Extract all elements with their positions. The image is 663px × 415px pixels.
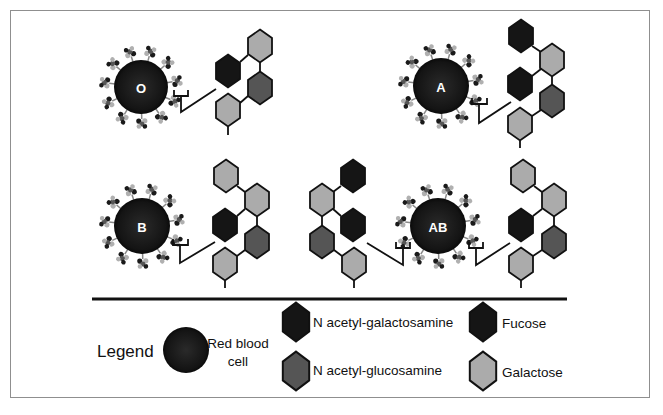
antigen-icon (433, 253, 445, 269)
cell-label-a: A (436, 80, 446, 95)
cell-group-o: O (99, 30, 272, 136)
legend-red-blood-cell-icon (163, 327, 209, 373)
antigen-icon (136, 113, 148, 129)
legend-n-acetyl-galactosamine-icon (283, 303, 309, 342)
n-acetyl-glucosamine-hexagon (248, 72, 272, 105)
galactose-hexagon (342, 248, 366, 281)
fucose-hexagon (213, 209, 237, 242)
n-acetyl-galactosamine-hexagon (509, 20, 533, 53)
antigen-icon (168, 213, 185, 227)
antigen-icon (137, 253, 149, 269)
legend-rbc-label-line1: Red blood (207, 336, 269, 351)
galactose-hexagon (213, 248, 237, 281)
antigen-bracket-b (173, 239, 215, 263)
cell-label-b: B (137, 220, 146, 235)
antigen-icon (166, 75, 183, 89)
n-acetyl-glucosamine-hexagon (245, 226, 269, 259)
antigen-icon (99, 76, 116, 89)
antigen-icon (398, 75, 415, 88)
galactose-hexagon (508, 108, 532, 141)
legend: Legend Red blood cell N acetyl-galactosa… (97, 303, 563, 391)
legend-item-label: N acetyl-galactosamine (313, 315, 453, 330)
fucose-hexagon (508, 68, 532, 101)
n-acetyl-glucosamine-hexagon (542, 226, 566, 259)
galactose-hexagon (511, 160, 535, 193)
galactose-hexagon (542, 184, 566, 217)
legend-title: Legend (97, 342, 154, 361)
antigen-icon (464, 213, 481, 227)
fucose-hexagon (216, 55, 240, 88)
antigen-icon (99, 215, 116, 228)
cell-group-a: A (398, 20, 564, 149)
legend-fucose-icon (470, 303, 496, 342)
antigen-icon (436, 113, 448, 129)
legend-n-acetyl-glucosamine-icon (283, 352, 309, 391)
legend-item-label: Fucose (502, 316, 546, 331)
n-acetyl-glucosamine-hexagon (540, 85, 564, 118)
galactose-hexagon (216, 94, 240, 127)
galactose-hexagon (509, 248, 533, 281)
n-acetyl-galactosamine-hexagon (341, 160, 365, 193)
legend-item-label: Galactose (502, 365, 563, 380)
galactose-hexagon (214, 160, 238, 193)
antigen-icon (395, 215, 412, 228)
galactose-hexagon (540, 44, 564, 77)
cell-group-ab: AB (310, 160, 566, 289)
galactose-hexagon (310, 184, 334, 217)
n-acetyl-glucosamine-hexagon (310, 226, 334, 259)
cell-label-o: O (136, 81, 146, 96)
legend-rbc-label-line2: cell (228, 354, 248, 369)
blood-group-diagram: O A B (0, 0, 663, 415)
galactose-hexagon (248, 30, 272, 63)
antigen-icon (467, 73, 484, 87)
fucose-hexagon (509, 209, 533, 242)
legend-item-label: N acetyl-glucosamine (313, 363, 442, 378)
cell-label-ab: AB (429, 220, 448, 235)
galactose-hexagon (245, 184, 269, 217)
antigen-bracket-o (174, 89, 216, 112)
fucose-hexagon (341, 209, 365, 242)
legend-galactose-icon (470, 352, 496, 391)
cell-group-b: B (99, 160, 269, 289)
